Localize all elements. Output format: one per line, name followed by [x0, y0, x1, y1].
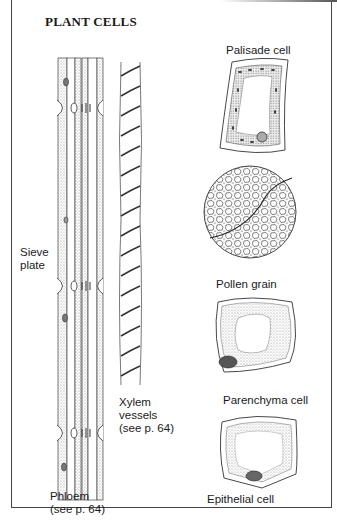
label-sieve-line2: plate: [20, 259, 49, 272]
xylem-illustration: [120, 62, 142, 385]
label-parenchyma-cell: Parenchyma cell: [223, 394, 308, 407]
label-epithelial-cell: Epithelial cell: [207, 493, 274, 506]
label-phloem: Phloem (see p. 64): [50, 490, 105, 516]
label-sieve-line1: Sieve: [20, 246, 49, 259]
epithelial-cell-illustration: [220, 416, 297, 488]
label-palisade-cell: Palisade cell: [226, 44, 291, 57]
parenchyma-cell-illustration: [216, 298, 296, 372]
palisade-cell-illustration: [220, 58, 288, 152]
label-phloem-line1: Phloem: [50, 490, 105, 503]
label-pollen-grain: Pollen grain: [216, 278, 277, 291]
label-xylem-line3: (see p. 64): [119, 422, 174, 435]
label-phloem-line2: (see p. 64): [50, 503, 105, 516]
phloem-illustration: [57, 58, 103, 500]
label-sieve-plate: Sieve plate: [20, 246, 49, 272]
plant-cells-illustration: [0, 0, 337, 527]
label-xylem-vessels: Xylem vessels (see p. 64): [119, 396, 174, 435]
pollen-grain-illustration: [204, 166, 296, 258]
label-xylem-line1: Xylem: [119, 396, 174, 409]
label-xylem-line2: vessels: [119, 409, 174, 422]
